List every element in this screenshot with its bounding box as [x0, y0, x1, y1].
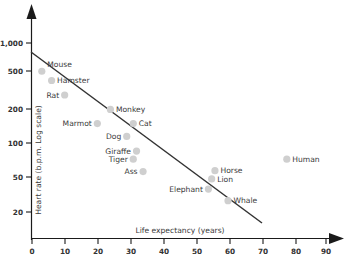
- chart-canvas: 1,000 500 200 100 50 20 0 10 20 30 40: [0, 0, 350, 262]
- x-tick-label-0: 0: [29, 247, 34, 256]
- y-tick-marks: [26, 43, 32, 212]
- y-tick-label-100: 100: [8, 139, 23, 148]
- x-tick-label-40: 40: [159, 247, 169, 256]
- data-point-marker: [283, 156, 290, 163]
- data-point-label: Tiger: [108, 155, 129, 164]
- y-axis-title: Heart rate (b.p.m. Log scale): [34, 105, 43, 215]
- data-point-marker: [130, 120, 137, 127]
- x-tick-label-60: 60: [225, 247, 235, 256]
- data-point-marker: [38, 68, 45, 75]
- data-point-marker: [211, 167, 218, 174]
- y-tick-label-200: 200: [8, 105, 23, 114]
- data-point-label: Mouse: [47, 60, 72, 69]
- data-point-label: Human: [292, 155, 320, 164]
- data-point-label: Whale: [234, 196, 258, 205]
- x-tick-label-90: 90: [321, 247, 331, 256]
- data-point-marker: [107, 106, 114, 113]
- x-tick-label-30: 30: [126, 247, 136, 256]
- scatter-chart: 1,000 500 200 100 50 20 0 10 20 30 40: [0, 0, 350, 262]
- x-tick-label-80: 80: [291, 247, 301, 256]
- data-point-marker: [130, 156, 137, 163]
- data-point-label: Dog: [106, 132, 121, 141]
- y-tick-label-20: 20: [13, 208, 23, 217]
- data-point-marker: [205, 185, 212, 192]
- data-point-marker: [208, 175, 215, 182]
- x-axis-arrow-icon: [329, 233, 344, 244]
- x-axis-title: Life expectancy (years): [135, 226, 224, 235]
- y-tick-label-50: 50: [13, 173, 23, 182]
- data-point-label: Cat: [139, 119, 152, 128]
- x-tick-labels: 0 10 20 30 40 50 60 70 80 90: [29, 247, 331, 256]
- data-point-marker: [123, 133, 130, 140]
- y-tick-label-1000: 1,000: [0, 39, 23, 48]
- y-tick-label-500: 500: [8, 67, 23, 76]
- x-tick-label-10: 10: [60, 247, 70, 256]
- data-point-marker: [94, 120, 101, 127]
- data-point-marker: [224, 197, 231, 204]
- x-tick-label-70: 70: [258, 247, 268, 256]
- x-tick-marks: [32, 239, 326, 245]
- data-point-marker: [48, 77, 55, 84]
- data-point-label: Lion: [217, 175, 233, 184]
- data-point-label: Ass: [124, 167, 137, 176]
- data-point-label: Rat: [46, 91, 59, 100]
- data-point-label: Marmot: [63, 119, 92, 128]
- data-point-label: Monkey: [116, 105, 146, 114]
- data-point-marker: [61, 91, 68, 98]
- x-tick-label-20: 20: [93, 247, 103, 256]
- data-point-marker: [139, 168, 146, 175]
- data-point-marker: [133, 147, 140, 154]
- data-series: MouseHamsterRatMonkeyMarmotCatDogGiraffe…: [38, 60, 320, 205]
- y-tick-labels: 1,000 500 200 100 50 20: [0, 39, 23, 217]
- y-axis-arrow-icon: [27, 4, 37, 19]
- data-point-label: Elephant: [169, 185, 203, 194]
- data-point-label: Hamster: [57, 76, 90, 85]
- x-tick-label-50: 50: [192, 247, 202, 256]
